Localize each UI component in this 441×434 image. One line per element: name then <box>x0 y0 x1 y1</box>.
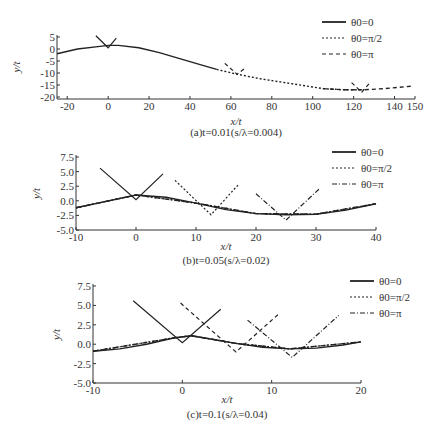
y-axis-label: y/t <box>10 61 22 74</box>
wedge-line <box>352 83 370 93</box>
legend-label: θ0=π <box>361 178 384 190</box>
x-tick-label: 0 <box>180 384 186 396</box>
y-tick-label: 5.0 <box>77 299 91 311</box>
wedge-line <box>133 301 221 343</box>
series-line <box>93 336 361 352</box>
x-tick-label: -20 <box>60 100 75 112</box>
series-line <box>93 336 361 352</box>
x-tick-label: 20 <box>251 231 263 243</box>
legend-label: θ0=π/2 <box>361 162 392 174</box>
wedge-line <box>100 168 163 200</box>
legend-label: θ0=0 <box>351 16 374 28</box>
chart-figure: 50-5-10-15-20-20020406080100120140150x/t… <box>0 0 441 434</box>
wedge-line <box>225 63 245 74</box>
x-tick-label: -10 <box>69 231 84 243</box>
y-tick-label: 7.5 <box>60 151 74 163</box>
x-tick-label: 40 <box>371 231 383 243</box>
x-tick-label: 40 <box>184 100 196 112</box>
x-tick-label: 0 <box>133 231 139 243</box>
x-axis-label: x/t <box>221 393 234 405</box>
y-tick-label: 0.0 <box>77 338 91 350</box>
legend-label: θ0=π/2 <box>351 32 382 44</box>
panel-caption: (a)t=0.01(s/λ=0.004) <box>190 126 282 139</box>
x-tick-label: 60 <box>225 100 237 112</box>
x-tick-label: 100 <box>304 100 321 112</box>
y-axis-label: y/t <box>30 187 42 200</box>
x-tick-label: 80 <box>266 100 278 112</box>
x-tick-label: 140 <box>386 100 403 112</box>
x-tick-label: 10 <box>266 384 278 396</box>
series-line <box>217 69 364 89</box>
y-tick-label: 5 <box>50 31 56 43</box>
x-axis-label: x/t <box>220 240 233 252</box>
legend-label: θ0=π <box>379 307 402 319</box>
wedge-line <box>248 315 339 357</box>
y-tick-label: 7.5 <box>77 280 91 292</box>
panel-caption: (b)t=0.05(s/λ=0.02) <box>183 254 270 267</box>
y-tick-label: 0 <box>50 43 56 55</box>
y-axis-label: y/t <box>50 328 62 341</box>
wedge-line <box>181 303 278 352</box>
y-tick-label: -2.5 <box>57 209 75 221</box>
legend-label: θ0=0 <box>361 146 384 158</box>
y-tick-label: -10 <box>40 67 55 79</box>
x-tick-label: 20 <box>144 100 156 112</box>
legend-label: θ0=π <box>351 48 374 60</box>
y-tick-label: -2.5 <box>74 358 92 370</box>
series-line <box>93 336 361 352</box>
x-tick-label: 10 <box>191 231 203 243</box>
y-tick-label: -15 <box>40 79 55 91</box>
x-tick-label: 30 <box>311 231 323 243</box>
panel-caption: (c)t=0.1(s/λ=0.04) <box>187 408 268 421</box>
y-tick-label: -20 <box>40 91 55 103</box>
legend-label: θ0=π/2 <box>379 291 410 303</box>
y-tick-label: 2.5 <box>77 319 91 331</box>
x-tick-label: 150 <box>407 100 424 112</box>
x-tick-label: -10 <box>86 384 101 396</box>
y-tick-label: 5.0 <box>60 166 74 178</box>
x-tick-label: 0 <box>105 100 111 112</box>
y-tick-label: 0.0 <box>60 195 74 207</box>
series-line <box>57 45 217 69</box>
y-tick-label: 2.5 <box>60 180 74 192</box>
legend-label: θ0=0 <box>379 275 402 287</box>
x-tick-label: 20 <box>356 384 368 396</box>
x-tick-label: 120 <box>345 100 362 112</box>
y-tick-label: -5 <box>46 55 56 67</box>
